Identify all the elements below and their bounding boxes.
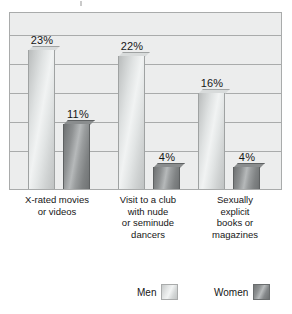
bar-men-club[interactable] xyxy=(118,52,145,189)
legend-swatch-women-icon xyxy=(253,284,270,300)
bar-front-face xyxy=(153,167,180,189)
category-label-club: Visit to a club with nude or seminude da… xyxy=(100,194,196,240)
bar-men-xrated[interactable] xyxy=(28,46,55,189)
page-speck xyxy=(80,1,82,6)
value-label-men-books: 16% xyxy=(194,77,230,89)
x-axis-labels: X-rated movies or videos Visit to a club… xyxy=(9,194,282,256)
value-label-men-xrated: 23% xyxy=(24,34,60,46)
legend-item-women[interactable]: Women xyxy=(214,284,270,300)
bar-women-club[interactable] xyxy=(153,163,180,189)
bar-women-books[interactable] xyxy=(233,163,260,189)
value-label-women-club: 4% xyxy=(152,151,182,163)
plot-area: 23% 11% 22% 4% 16% 4% xyxy=(9,12,282,190)
bar-men-books[interactable] xyxy=(198,89,225,189)
category-label-books: Sexually explicit books or magazines xyxy=(192,194,278,240)
legend-item-men[interactable]: Men xyxy=(137,284,178,300)
bar-front-face xyxy=(63,124,90,189)
legend-label-women: Women xyxy=(214,287,248,298)
bar-front-face xyxy=(118,56,145,189)
legend-label-men: Men xyxy=(137,287,156,298)
value-label-women-books: 4% xyxy=(232,151,262,163)
bar-front-face xyxy=(28,50,55,189)
value-label-men-club: 22% xyxy=(114,40,150,52)
chart-legend: Men Women xyxy=(9,284,282,304)
value-label-women-xrated: 11% xyxy=(60,108,96,120)
bar-front-face xyxy=(233,167,260,189)
bar-front-face xyxy=(198,93,225,189)
bar-women-xrated[interactable] xyxy=(63,120,90,189)
category-label-xrated: X-rated movies or videos xyxy=(5,194,109,217)
legend-swatch-men-icon xyxy=(161,284,178,300)
